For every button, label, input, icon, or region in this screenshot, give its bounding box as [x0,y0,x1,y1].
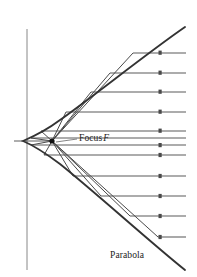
ray-marker-tick [159,90,162,94]
ray-marker-tick [159,194,162,198]
ray-marker-tick [159,214,162,218]
focus-label: FocusF [79,133,109,143]
ray-marker-tick [159,51,162,55]
ray-marker-tick [159,71,162,75]
focus-label-text: Focus [79,133,102,143]
reflected-ray [31,141,52,145]
ray-marker-tick [159,153,162,157]
focus-label-leader-line [56,139,77,142]
ray-marker-tick [159,143,162,147]
focus-symbol-text: F [102,133,109,143]
parabola-label: Parabola [110,250,144,260]
ray-marker-tick [159,235,162,239]
ray-marker-tick [159,110,162,114]
ray-marker-tick [159,129,162,133]
reflected-ray [52,141,101,196]
parabola-figure: FocusF Parabola [0,0,197,277]
ray-marker-tick [159,174,162,178]
focus-point-dot [49,138,54,143]
ray-marker-group [159,51,162,240]
